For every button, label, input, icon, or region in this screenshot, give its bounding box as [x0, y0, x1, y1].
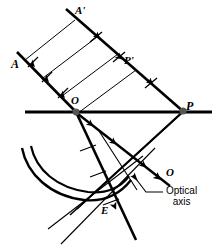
label-point-P: P: [186, 100, 193, 112]
tangent-line-2: [48, 156, 143, 229]
tangent-line-group: [48, 131, 155, 244]
label-optical-axis: Optical axis: [166, 186, 197, 207]
optics-ray-diagram: A A' P' O P O E Optical axis: [0, 0, 218, 245]
label-optical-axis-line1: Optical: [166, 185, 197, 196]
label-optical-axis-line2: axis: [173, 196, 191, 207]
wavefront-line-2: [43, 37, 97, 78]
incident-ray-A: [17, 52, 78, 114]
label-point-O-lower: O: [166, 167, 174, 178]
wavefront-line-4: [78, 70, 136, 113]
wavefront-group: [25, 20, 136, 113]
label-point-A: A: [11, 58, 19, 70]
label-point-P-prime: P': [124, 55, 134, 66]
wavefront-line-1: [25, 20, 75, 60]
tangent-line-1: [61, 148, 155, 244]
label-point-E: E: [101, 205, 108, 216]
tangent-line-3: [99, 131, 137, 190]
vertex-point-O: [73, 109, 80, 116]
label-point-O: O: [71, 95, 79, 106]
diagram-canvas: [0, 0, 218, 245]
tick-mark: [90, 171, 106, 177]
label-point-A-prime: A': [75, 5, 85, 16]
